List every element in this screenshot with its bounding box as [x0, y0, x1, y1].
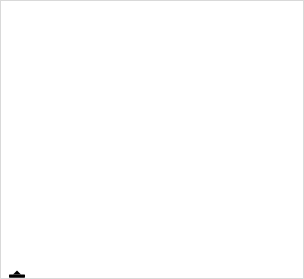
- chart-figure: [0, 0, 304, 279]
- publisher-logo-icon: [7, 268, 33, 279]
- chart-canvas: [36, 46, 294, 236]
- plot-area: [36, 46, 294, 236]
